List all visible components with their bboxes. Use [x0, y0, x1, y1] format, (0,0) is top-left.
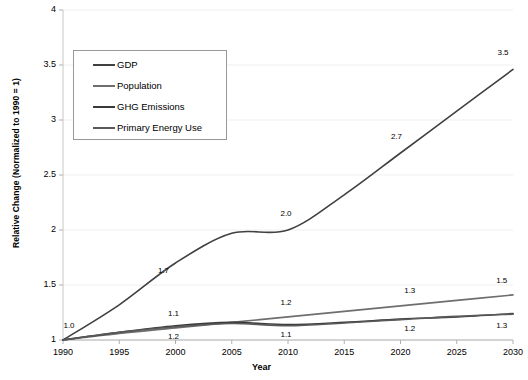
data-point-label: 1.2 [162, 332, 186, 341]
x-tick-label: 1990 [40, 347, 86, 357]
legend-item-primary-energy-use[interactable]: Primary Energy Use [93, 118, 202, 138]
data-point-label: 1.7 [152, 266, 176, 275]
data-point-label: 3.5 [491, 48, 515, 57]
legend-label: Population [117, 81, 162, 91]
legend-swatch-icon [93, 64, 115, 66]
legend-swatch-icon [93, 85, 115, 87]
y-tick-label: 4 [26, 4, 56, 14]
legend-label: GHG Emissions [117, 102, 185, 112]
data-point-label: 1.2 [274, 298, 298, 307]
data-point-label: 1.1 [162, 309, 186, 318]
data-point-label: 1.0 [57, 321, 81, 330]
legend-item-gdp[interactable]: GDP [93, 55, 138, 75]
y-tick-label: 3.5 [26, 59, 56, 69]
x-tick-label: 1995 [96, 347, 142, 357]
legend-swatch-icon [93, 106, 115, 108]
chart-legend: GDPPopulationGHG EmissionsPrimary Energy… [73, 50, 227, 140]
x-tick-label: 2015 [321, 347, 367, 357]
y-tick-label: 1 [26, 334, 56, 344]
data-point-label: 1.3 [490, 321, 514, 330]
data-point-label: 1.1 [274, 330, 298, 339]
y-tick-label: 2.5 [26, 169, 56, 179]
legend-item-ghg-emissions[interactable]: GHG Emissions [93, 97, 185, 117]
data-point-label: 2.0 [274, 209, 298, 218]
legend-swatch-icon [93, 127, 115, 129]
y-tick-label: 1.5 [26, 279, 56, 289]
data-point-label: 1.2 [398, 324, 422, 333]
x-tick-label: 2000 [153, 347, 199, 357]
data-point-label: 2.7 [385, 132, 409, 141]
legend-label: GDP [117, 60, 138, 70]
y-tick-label: 2 [26, 224, 56, 234]
x-axis-title: Year [0, 362, 523, 372]
x-tick-label: 2010 [265, 347, 311, 357]
x-tick-label: 2020 [378, 347, 424, 357]
legend-item-population[interactable]: Population [93, 76, 162, 96]
legend-label: Primary Energy Use [117, 123, 202, 133]
x-tick-label: 2005 [209, 347, 255, 357]
x-tick-label: 2030 [490, 347, 528, 357]
y-tick-label: 3 [26, 114, 56, 124]
y-axis-title: Relative Change (Normalized to 1990 = 1) [11, 43, 21, 283]
data-point-label: 1.5 [490, 276, 514, 285]
data-point-label: 1.3 [398, 286, 422, 295]
x-tick-label: 2025 [434, 347, 480, 357]
